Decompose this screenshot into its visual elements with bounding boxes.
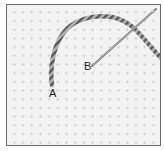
label-a: A <box>49 87 56 99</box>
thread <box>51 16 163 85</box>
label-b: B <box>84 60 91 72</box>
stitch-illustration <box>0 0 164 151</box>
